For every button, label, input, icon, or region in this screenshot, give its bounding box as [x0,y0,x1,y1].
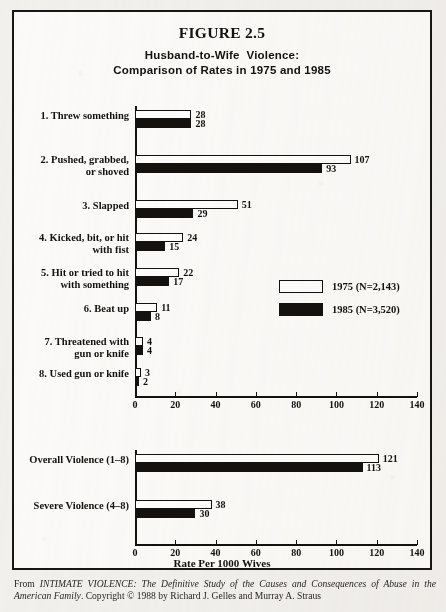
bar-value-label: 29 [197,208,207,219]
category-label: 4. Kicked, bit, or hit with fist [0,232,129,255]
bar-value-label: 107 [355,154,370,165]
bar-1985 [135,277,169,286]
bar-value-label: 11 [161,302,170,313]
x-axis-tick [417,392,418,397]
x-axis-tick [216,392,217,397]
figure-subtitle-line-1: Husband-to-Wife Violence: [14,48,430,63]
legend-item-y1975: 1975 (N=2,143) [279,280,400,293]
category-label: 6. Beat up [0,303,129,315]
figure-subtitle: Husband-to-Wife Violence: Comparison of … [14,48,430,78]
bar-value-label: 93 [326,163,336,174]
legend-label: 1985 (N=3,520) [332,304,400,315]
x-axis-tick [135,540,136,545]
x-axis-tick-label: 60 [244,399,268,410]
bar-1975 [135,454,379,463]
category-label: Overall Violence (1–8) [0,454,129,466]
bar-value-label: 2 [143,376,148,387]
figure-subtitle-line-2: Comparison of Rates in 1975 and 1985 [14,63,430,78]
x-axis-tick [135,392,136,397]
bar-1985 [135,209,193,218]
bar-value-label: 22 [183,267,193,278]
category-label: 7. Threatened with gun or knife [0,336,129,359]
category-label: 1. Threw something [0,110,129,122]
category-label: 8. Used gun or knife [0,368,129,380]
x-axis-tick [377,392,378,397]
x-axis-tick [296,540,297,545]
figure-number-title: FIGURE 2.5 [14,24,430,42]
figure-frame: FIGURE 2.5 Husband-to-Wife Violence: Com… [12,10,432,570]
x-axis-tick [175,540,176,545]
legend-swatch-y1985 [279,303,323,316]
x-axis-tick [377,540,378,545]
x-axis-tick-label: 80 [284,399,308,410]
source-citation: From INTIMATE VIOLENCE: The Definitive S… [14,578,436,603]
bar-1975 [135,155,351,164]
bar-value-label: 28 [195,118,205,129]
chart-summary-violence-rates: 0204060801001201401211133830Overall Viol… [14,444,430,556]
bar-value-label: 30 [199,508,209,519]
bar-1985 [135,509,195,518]
citation-prefix: From [14,578,40,589]
bar-value-label: 51 [242,199,252,210]
bar-value-label: 121 [383,453,398,464]
bar-1975 [135,337,143,346]
plot-area: 0204060801001201402828107935129241522171… [135,100,417,398]
x-axis-tick [216,540,217,545]
category-label: 5. Hit or tried to hit with something [0,267,129,290]
bar-1985 [135,119,191,128]
bar-value-label: 113 [367,462,381,473]
x-axis-tick [336,540,337,545]
bar-value-label: 8 [155,311,160,322]
x-axis-tick-label: 20 [163,399,187,410]
x-axis-tick [175,392,176,397]
legend-label: 1975 (N=2,143) [332,281,400,292]
bar-1975 [135,303,157,312]
legend-swatch-y1975 [279,280,323,293]
bar-value-label: 15 [169,241,179,252]
bar-1975 [135,200,238,209]
bar-1975 [135,110,191,119]
x-axis-tick-label: 40 [204,399,228,410]
citation-suffix: . Copyright © 1988 by Richard J. Gelles … [81,590,321,601]
x-axis-tick [336,392,337,397]
bar-value-label: 38 [216,499,226,510]
x-axis-line [135,544,417,546]
bar-1985 [135,164,322,173]
x-axis-tick-label: 120 [365,399,389,410]
bar-value-label: 17 [173,276,183,287]
bar-value-label: 24 [187,232,197,243]
bar-1985 [135,377,139,386]
category-label: Severe Violence (4–8) [0,500,129,512]
legend-item-y1985: 1985 (N=3,520) [279,303,400,316]
x-axis-tick [256,392,257,397]
x-axis-tick [256,540,257,545]
x-axis-tick [417,540,418,545]
bar-1985 [135,312,151,321]
x-axis-tick-label: 140 [405,399,429,410]
bar-1975 [135,368,141,377]
x-axis-line [135,396,417,398]
category-label: 3. Slapped [0,200,129,212]
x-axis-title: Rate Per 1000 Wives [14,557,430,569]
bar-1985 [135,242,165,251]
bar-1985 [135,346,143,355]
x-axis-tick-label: 100 [324,399,348,410]
plot-area: 0204060801001201401211133830 [135,444,417,546]
bar-value-label: 4 [147,345,152,356]
bar-1985 [135,463,363,472]
x-axis-tick [296,392,297,397]
x-axis-tick-label: 0 [123,399,147,410]
chart-legend: 1975 (N=2,143)1985 (N=3,520) [279,280,429,326]
category-label: 2. Pushed, grabbed, or shoved [0,154,129,177]
